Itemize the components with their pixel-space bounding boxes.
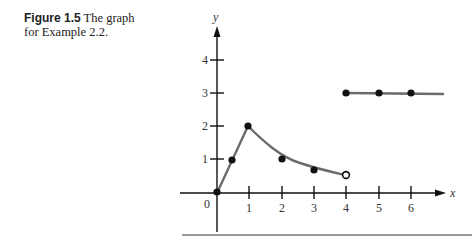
decreasing-curve <box>248 126 345 175</box>
x-tick-6: 6 <box>408 201 414 215</box>
open-point <box>343 172 350 179</box>
y-axis-label: y <box>212 10 219 24</box>
y-axis-arrow-icon <box>214 26 221 37</box>
y-tick-2: 2 <box>202 119 208 133</box>
x-tick-2: 2 <box>279 201 285 215</box>
axes <box>180 34 438 232</box>
y-tick-4: 4 <box>202 53 208 67</box>
x-tick-1: 1 <box>246 201 252 215</box>
x-tick-3: 3 <box>311 201 317 215</box>
x-axis-arrow-icon <box>435 190 446 197</box>
y-tick-3: 3 <box>202 86 208 100</box>
x-tick-4: 4 <box>343 201 349 215</box>
constant-segment <box>346 93 443 94</box>
x-axis-label: x <box>449 186 456 200</box>
graph: y x 1 2 3 4 0 1 2 3 4 5 6 <box>0 0 472 243</box>
x-tick-5: 5 <box>376 201 382 215</box>
filled-points <box>213 89 414 195</box>
x-tick-0: 0 <box>204 197 210 211</box>
y-tick-1: 1 <box>202 152 208 166</box>
